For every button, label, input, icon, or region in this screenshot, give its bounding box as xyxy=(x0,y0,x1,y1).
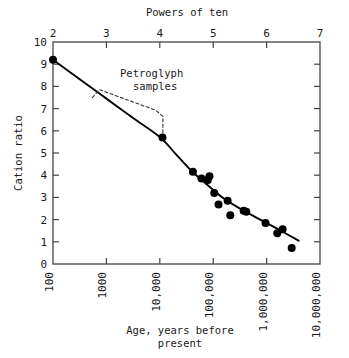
top-tick-label-2: 2 xyxy=(50,27,57,40)
petroglyph-label-line2: samples xyxy=(133,80,177,92)
top-axis-title: Powers of ten xyxy=(146,6,228,18)
y-tick-label-2: 2 xyxy=(40,214,47,227)
cation-ratio-chart: Powers of ten 234567 100100010,000100,00… xyxy=(0,0,349,358)
data-point xyxy=(262,219,270,227)
y-tick-label-6: 6 xyxy=(40,125,47,138)
top-tick-label-5: 5 xyxy=(210,27,217,40)
data-point xyxy=(279,225,287,233)
data-point xyxy=(205,172,213,180)
bottom-tick-label-1000: 1000 xyxy=(96,272,109,299)
top-tick-label-4: 4 xyxy=(156,27,163,40)
petroglyph-label-line1: Petroglyph xyxy=(120,67,183,79)
x-axis-title-line2: present xyxy=(158,337,202,349)
data-point xyxy=(224,197,232,205)
chart-canvas: Powers of ten 234567 100100010,000100,00… xyxy=(0,0,349,358)
bottom-tick-label-10000: 10,000 xyxy=(150,272,163,312)
data-point xyxy=(189,168,197,176)
data-point xyxy=(215,201,223,209)
bottom-tick-label-10000000: 10,000,000 xyxy=(310,272,323,338)
x-axis-title-line1: Age, years before xyxy=(126,324,233,336)
data-point xyxy=(210,189,218,197)
y-tick-label-4: 4 xyxy=(40,169,47,182)
bottom-tick-label-100000: 100,000 xyxy=(203,272,216,318)
y-tick-label-3: 3 xyxy=(40,191,47,204)
top-tick-label-3: 3 xyxy=(103,27,110,40)
y-axis-title: Cation ratio xyxy=(12,115,24,191)
data-point xyxy=(242,208,250,216)
y-tick-label-5: 5 xyxy=(40,147,47,160)
y-tick-label-9: 9 xyxy=(40,58,47,71)
data-point xyxy=(226,211,234,219)
y-tick-label-0: 0 xyxy=(40,258,47,271)
data-point xyxy=(158,133,166,141)
y-tick-label-7: 7 xyxy=(40,103,47,116)
bottom-tick-label-1000000: 1,000,000 xyxy=(257,272,270,332)
top-tick-label-6: 6 xyxy=(263,27,270,40)
data-point xyxy=(288,244,296,252)
top-tick-label-7: 7 xyxy=(317,27,324,40)
bottom-tick-label-100: 100 xyxy=(43,272,56,292)
y-tick-label-10: 10 xyxy=(34,36,47,49)
y-tick-label-1: 1 xyxy=(40,236,47,249)
y-tick-label-8: 8 xyxy=(40,80,47,93)
data-point xyxy=(49,56,57,64)
